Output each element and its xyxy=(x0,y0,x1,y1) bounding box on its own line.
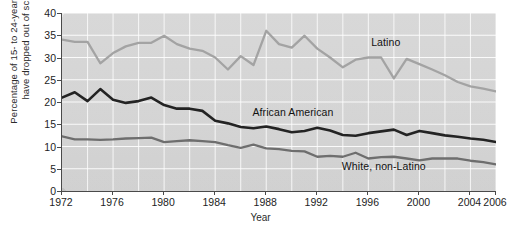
x-axis-tick-mark xyxy=(112,191,113,195)
x-axis-tick-mark xyxy=(316,191,317,195)
y-axis-tick-label: 35 xyxy=(30,29,56,41)
x-axis-tick-mark xyxy=(495,191,496,195)
x-axis-tick-label: 2000 xyxy=(407,196,430,208)
x-axis-tick-label: 1984 xyxy=(202,196,225,208)
x-axis-tick-label: 2006 xyxy=(483,196,506,208)
plot-area xyxy=(61,13,496,191)
y-axis-tick-label: 5 xyxy=(30,163,56,175)
x-axis-tick-mark xyxy=(367,191,368,195)
x-axis-tick-label: 1996 xyxy=(356,196,379,208)
y-axis-tick-label: 15 xyxy=(30,118,56,130)
x-axis-tick-label: 1976 xyxy=(100,196,123,208)
x-axis-tick-mark xyxy=(163,191,164,195)
series-line xyxy=(62,31,496,92)
x-axis-tick-label: 2004 xyxy=(458,196,481,208)
x-axis-tick-mark xyxy=(469,191,470,195)
x-axis-tick-labels: 1972197619801984198819921996200020042006 xyxy=(61,196,495,210)
series-label-latino: Latino xyxy=(371,36,400,48)
x-axis-tick-label: 1988 xyxy=(254,196,277,208)
y-axis-tick-label: 25 xyxy=(30,74,56,86)
series-label-african-american: African American xyxy=(252,106,333,118)
series-lines xyxy=(62,13,496,191)
x-axis-tick-label: 1980 xyxy=(151,196,174,208)
y-axis-tick-label: 20 xyxy=(30,96,56,108)
y-axis-tick-label: 40 xyxy=(30,7,56,19)
x-axis-title: Year xyxy=(0,212,503,223)
x-axis-tick-mark xyxy=(265,191,266,195)
x-axis-tick-mark xyxy=(61,191,62,195)
x-axis-tick-mark xyxy=(214,191,215,195)
x-axis-tick-mark xyxy=(418,191,419,195)
x-axis-title-text: Year xyxy=(250,212,270,223)
y-axis-tick-label: 30 xyxy=(30,52,56,64)
x-axis-tick-label: 1992 xyxy=(305,196,328,208)
y-axis-title-line-1: Percentage of 15- to 24-year-olds who xyxy=(8,0,20,124)
x-axis-tick-label: 1972 xyxy=(49,196,72,208)
y-axis-tick-label: 10 xyxy=(30,141,56,153)
series-label-white-non-latino: White, non-Latino xyxy=(342,160,426,172)
series-line xyxy=(62,136,496,164)
